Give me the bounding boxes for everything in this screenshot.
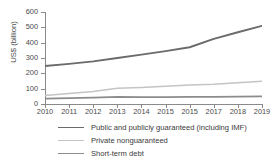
legend-line-swatch: [58, 140, 84, 141]
y-tick-label: 600: [0, 8, 38, 15]
y-tick-label: 300: [0, 54, 38, 61]
line-chart: US$ (billion) 0100200300400500600 201020…: [0, 0, 274, 164]
y-tick-label: 200: [0, 69, 38, 76]
legend-item-label: Private nonguaranteed: [91, 134, 168, 147]
series-line: [45, 26, 262, 66]
y-tick-label: 400: [0, 39, 38, 46]
x-axis-line: [45, 104, 263, 105]
chart-legend: Public and publicly guaranteed (includin…: [58, 121, 274, 160]
legend-item-label: Public and publicly guaranteed (includin…: [91, 121, 247, 134]
legend-line-swatch: [58, 153, 84, 154]
y-tick-label: 100: [0, 85, 38, 92]
series-line: [45, 81, 262, 95]
legend-item[interactable]: Short-term debt: [58, 147, 274, 160]
legend-item-label: Short-term debt: [91, 147, 144, 160]
y-tick-label: 500: [0, 23, 38, 30]
series-plot: [45, 12, 262, 104]
x-tick-label: 2019: [247, 108, 274, 116]
legend-item[interactable]: Private nonguaranteed: [58, 134, 274, 147]
y-tick-label: 0: [0, 100, 38, 107]
legend-line-swatch: [58, 127, 84, 128]
legend-item[interactable]: Public and publicly guaranteed (includin…: [58, 121, 274, 134]
series-line: [45, 96, 262, 98]
